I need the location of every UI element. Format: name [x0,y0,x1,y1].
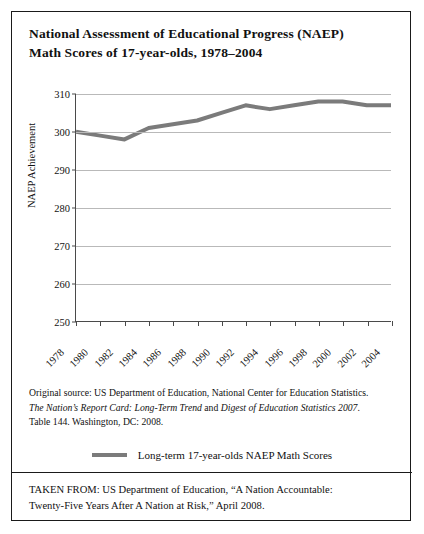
figure-frame: National Assessment of Educational Progr… [11,11,411,521]
chart: NAEP Achievement 25026027028029030031019… [12,86,412,371]
x-axis-tick-label: 1982 [92,347,115,370]
gridline [76,208,391,209]
x-axis-tick [392,321,393,326]
page-title: National Assessment of Educational Progr… [29,24,395,62]
source-line-2-italic-a: The Nation’s Report Card: Long-Term Tren… [29,402,202,413]
series-polyline [76,102,391,140]
x-axis-tick-label: 1984 [116,347,139,370]
plot-area: 2502602702802903003101978198019821984198… [75,94,391,322]
x-axis-tick [222,321,223,326]
gridline [76,284,391,285]
gridline [76,132,391,133]
x-axis-tick [246,321,247,326]
x-axis-tick-label: 1978 [43,347,66,370]
y-axis-tick-label: 260 [54,279,70,290]
y-axis-tick-label: 300 [54,127,70,138]
source-line-2-plain: and [202,402,221,413]
y-axis-tick [72,246,76,247]
y-axis-tick [72,208,76,209]
x-axis-tick [270,321,271,326]
x-axis-tick-label: 2000 [311,347,334,370]
taken-from-note: TAKEN FROM: US Department of Education, … [29,482,395,514]
source-line-1: Original source: US Department of Educat… [29,387,369,398]
y-axis-tick [72,284,76,285]
x-axis-tick-label: 1998 [287,347,310,370]
legend-label: Long-term 17-year-olds NAEP Math Scores [138,449,332,461]
y-axis-tick [72,94,76,95]
gridline [76,246,391,247]
x-axis-tick [149,321,150,326]
divider [12,472,412,473]
x-axis-tick-label: 1992 [214,347,237,370]
title-line-1: National Assessment of Educational Progr… [29,26,344,41]
y-axis-title: NAEP Achievement [26,123,37,208]
source-line-3: Table 144. Washington, DC: 2008. [29,416,163,427]
source-line-2-italic-b: Digest of Education Statistics 2007 [221,402,358,413]
taken-from-line-1: TAKEN FROM: US Department of Education, … [29,484,333,495]
x-axis-tick-label: 1990 [189,347,212,370]
x-axis-tick-label: 1996 [262,347,285,370]
x-axis-tick [343,321,344,326]
x-axis-tick [368,321,369,326]
x-axis-tick-label: 2004 [359,347,382,370]
x-axis-tick-label: 1980 [68,347,91,370]
x-axis-tick [100,321,101,326]
source-note: Original source: US Department of Educat… [29,386,395,430]
taken-from-line-2: Twenty-Five Years After A Nation at Risk… [29,500,265,511]
x-axis-tick [173,321,174,326]
y-axis-tick-label: 270 [54,241,70,252]
y-axis-tick-label: 280 [54,203,70,214]
x-axis-tick [198,321,199,326]
gridline [76,94,391,95]
y-axis-tick [72,132,76,133]
title-line-2: Math Scores of 17-year-olds, 1978–2004 [29,43,395,62]
x-axis-tick-label: 1986 [141,347,164,370]
x-axis-tick-label: 1994 [238,347,261,370]
x-axis-tick-label: 2002 [335,347,358,370]
source-line-2-end: . [357,402,359,413]
legend-swatch-icon [92,453,127,458]
x-axis-tick-label: 1988 [165,347,188,370]
x-axis-tick [76,321,77,326]
y-axis-tick [72,170,76,171]
y-axis-tick-label: 310 [54,89,70,100]
x-axis-tick [295,321,296,326]
y-axis-tick-label: 290 [54,165,70,176]
chart-legend: Long-term 17-year-olds NAEP Math Scores [12,449,412,461]
gridline [76,170,391,171]
x-axis-tick [125,321,126,326]
x-axis-tick [319,321,320,326]
y-axis-tick-label: 250 [54,317,70,328]
